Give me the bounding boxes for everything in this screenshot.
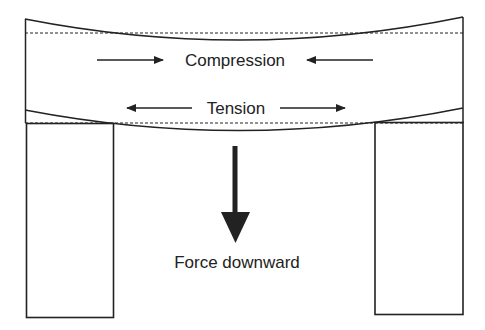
left-support bbox=[27, 124, 114, 318]
compression-label: Compression bbox=[185, 51, 285, 70]
beam-diagram: Compression Tension Force downward bbox=[0, 0, 485, 330]
compression-group: Compression bbox=[97, 51, 373, 70]
right-support bbox=[375, 123, 463, 315]
force-arrow-down-icon bbox=[221, 146, 250, 243]
tension-group: Tension bbox=[127, 99, 345, 118]
force-label: Force downward bbox=[174, 253, 300, 272]
tension-label: Tension bbox=[207, 99, 266, 118]
beam-top-curve bbox=[25, 17, 463, 40]
